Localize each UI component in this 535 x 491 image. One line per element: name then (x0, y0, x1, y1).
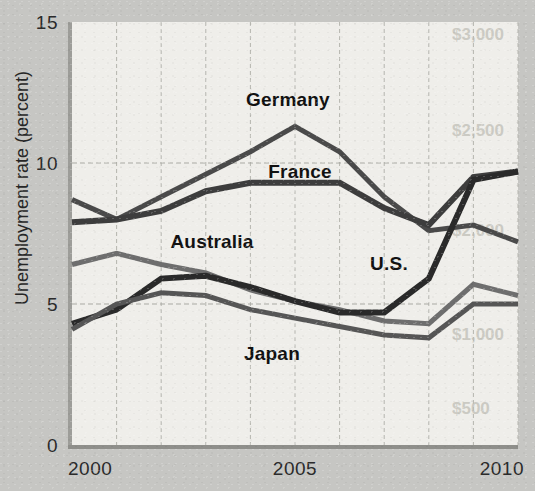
series-label-germany: Germany (246, 89, 330, 110)
y-axis-spine (68, 22, 72, 449)
y-axis-title: Unemployment rate (percent) (12, 71, 32, 305)
series-label-us: U.S. (370, 253, 408, 274)
series-label-australia: Australia (170, 231, 253, 252)
unemployment-rate-line-chart: $3,000$2,500$2,000$1,000$500 051015 2000… (0, 0, 535, 491)
chart-page: $3,000$2,500$2,000$1,000$500 051015 2000… (0, 0, 535, 491)
y-tick-label-0: 0 (47, 435, 58, 456)
x-tick-label-2000: 2000 (68, 458, 112, 479)
y-tick-label-10: 10 (36, 153, 58, 174)
series-label-france: France (268, 161, 332, 182)
x-tick-label-2005: 2005 (273, 458, 317, 479)
x-axis-spine (68, 445, 518, 449)
series-label-japan: Japan (244, 343, 300, 364)
y-tick-label-5: 5 (47, 294, 58, 315)
bleed-text-1: $2,500 (452, 121, 504, 140)
x-axis-tick-labels: 200020052010 (68, 458, 524, 479)
y-tick-label-15: 15 (36, 12, 58, 33)
bleed-text-4: $500 (452, 399, 490, 418)
bleed-text-0: $3,000 (452, 25, 504, 44)
bleed-text-2: $2,000 (452, 221, 504, 240)
bleed-text-3: $1,000 (452, 325, 504, 344)
x-tick-label-2010: 2010 (480, 458, 524, 479)
y-axis-tick-labels: 051015 (36, 12, 58, 456)
